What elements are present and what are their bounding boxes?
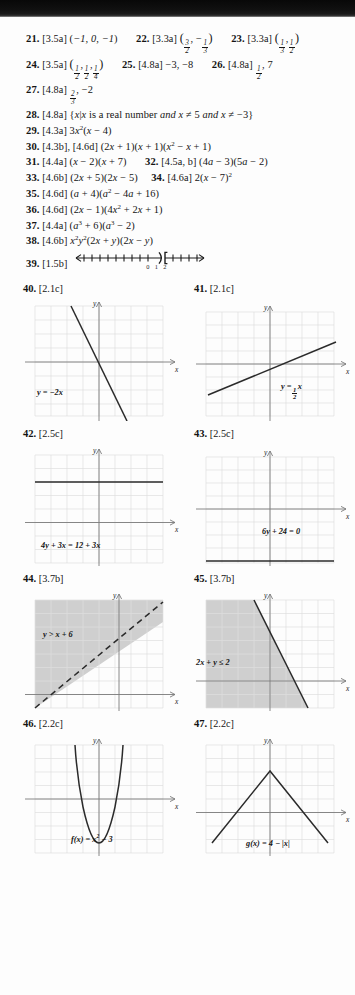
answer-value: (12,12,14) <box>70 59 104 70</box>
graph-number: 45. <box>194 573 207 584</box>
graph-header: 46. [2.2c] <box>23 718 177 729</box>
answer-section: [4.3b], [4.6d] <box>42 141 98 152</box>
answer-number: 32. <box>145 156 159 167</box>
y-axis-label: y <box>92 446 97 455</box>
graph-cell-41: 41. [2.1c] <box>178 276 348 421</box>
x-axis-label: x <box>345 367 350 376</box>
answer-row: 30. [4.3b], [4.6d] (2x + 1)(x + 1)(x2 − … <box>26 140 345 155</box>
answer-value: x2y2(2x + y)(2x − y) <box>70 235 153 246</box>
answer-section: [3.3a] <box>152 33 177 44</box>
answer-section: [4.5a, b] <box>161 156 196 167</box>
line-plot <box>208 342 336 395</box>
answer-row: 21. [3.5a] (−1, 0, −1) 22. [3.3a] (32, −… <box>26 31 345 56</box>
graph-row: 40. [2.1c] <box>7 276 348 421</box>
answer-row: 24. [3.5a] (12,12,14) 25. [4.8a] −3, −8 … <box>26 57 345 82</box>
graph-section: [2.1c] <box>39 283 63 294</box>
graph-section: [2.1c] <box>210 283 234 294</box>
answer-section: [4.8a] <box>42 84 67 95</box>
answer-row: 28. [4.8a] {x|x is a real number and x ≠… <box>26 108 345 123</box>
answer-section: [4.4a] <box>42 156 67 167</box>
answer-number: 33. <box>26 172 40 183</box>
answer-row: 35. [4.6d] (a + 4)(a2 − 4a + 16) <box>26 187 345 202</box>
graph-header: 47. [2.2c] <box>194 718 348 729</box>
answer-value: (a + 4)(a2 − 4a + 16) <box>70 188 159 199</box>
answer-value: 12, 7 <box>255 59 272 70</box>
answer-value: (−1, 0, −1) <box>70 33 118 44</box>
x-axis-label: x <box>174 365 179 374</box>
graph-number: 44. <box>23 573 36 584</box>
answer-value: −3, −8 <box>165 59 193 70</box>
graph-header: 42. [2.5c] <box>23 428 177 439</box>
graph-section: [3.7b] <box>210 573 235 584</box>
answer-number: 25. <box>122 59 136 70</box>
graph-number: 43. <box>194 428 207 439</box>
answer-value: (2x + 5)(2x − 5) <box>70 172 138 183</box>
answer-row: 36. [4.6d] (2x − 1)(4x2 + 2x + 1) <box>26 203 345 218</box>
answer-section: [4.8a] <box>138 59 163 70</box>
answer-value: (a3 + 6)(a3 − 2) <box>70 220 135 231</box>
x-axis-label: x <box>174 697 179 706</box>
graph-46: y x f(x) = x2 − 3 <box>15 731 183 856</box>
graph-cell-47: 47. [2.2c] <box>178 711 348 856</box>
answer-key-page: 21. [3.5a] (−1, 0, −1) 22. [3.3a] (32, −… <box>0 17 355 995</box>
answer-section: [4.6d] <box>42 204 67 215</box>
graph-equation-label: 6y + 24 = 0 <box>262 527 300 536</box>
graph-section: [2.2c] <box>210 718 234 729</box>
x-axis-label: x <box>174 525 179 534</box>
answer-number: 22. <box>136 33 150 44</box>
graph-grid: 40. [2.1c] <box>0 276 355 856</box>
answer-section: [1.5b] <box>42 258 67 269</box>
graph-equation-label: y = −2x <box>37 388 63 397</box>
answer-section: [4.6a] <box>167 172 192 183</box>
graph-40: y x y = −2x <box>15 296 183 421</box>
graph-equation-label: 4y + 3x = 12 + 3x <box>41 541 100 550</box>
graph-cell-43: 43. [2.5c] <box>178 421 348 566</box>
answer-value: (4a − 3)(5a − 2) <box>199 156 268 167</box>
graph-number: 47. <box>194 718 207 729</box>
graph-section: [3.7b] <box>39 573 64 584</box>
answer-section: [3.3a] <box>247 33 272 44</box>
graph-row: 46. [2.2c] <box>7 711 348 856</box>
graph-header: 40. [2.1c] <box>23 283 177 294</box>
graph-function-label: g(x) = 4 − |x| <box>246 839 290 848</box>
answer-section: [4.6b] <box>42 235 67 246</box>
x-axis-label: x <box>345 815 350 824</box>
graph-number: 41. <box>194 283 207 294</box>
x-axis-label: x <box>345 684 350 693</box>
answer-number: 36. <box>26 204 40 215</box>
answer-row: 29. [4.3a] 3x2(x − 4) <box>26 124 345 139</box>
answer-number: 31. <box>26 156 40 167</box>
graph-inequality-label: 2x + y ≤ 2 <box>196 658 230 667</box>
graph-number: 40. <box>23 283 36 294</box>
answer-value: 2(x − 7)2 <box>195 172 232 183</box>
graph-equation-label: y =12x <box>281 382 302 401</box>
graph-cell-40: 40. [2.1c] <box>7 276 177 421</box>
answer-value: (32, −13) <box>180 33 213 44</box>
answer-number: 35. <box>26 188 40 199</box>
graph-41: y x y =12x <box>186 296 354 421</box>
graph-section: [2.5c] <box>210 428 234 439</box>
number-line-graph: 0 1 2 <box>70 250 210 275</box>
graph-cell-42: 42. [2.5c] <box>7 421 177 566</box>
tick-label-0: 0 <box>147 263 150 270</box>
answer-section: [4.3a] <box>42 125 67 136</box>
graph-row: 42. [2.5c] <box>7 421 348 566</box>
y-axis-label: y <box>112 591 117 600</box>
label-text: f(x) = x2 − 3 <box>71 835 113 844</box>
y-axis-label: y <box>92 736 97 745</box>
answer-value: 3x2(x − 4) <box>70 125 112 136</box>
graph-header: 44. [3.7b] <box>23 573 177 584</box>
answer-value: (2x + 1)(x + 1)(x2 − x + 1) <box>101 141 211 152</box>
answer-section: [3.5a] <box>42 59 67 70</box>
answer-number: 24. <box>26 59 40 70</box>
answer-section: [4.8a] <box>228 59 253 70</box>
answer-number: 23. <box>231 33 245 44</box>
graph-number: 42. <box>23 428 36 439</box>
graph-cell-46: 46. [2.2c] <box>7 711 177 856</box>
graph-function-label: f(x) = x2 − 3 <box>71 835 113 844</box>
answer-number: 26. <box>212 59 226 70</box>
answer-value: (13,12) <box>275 33 299 44</box>
x-axis-label: x <box>345 512 350 521</box>
answer-section: [4.4a] <box>42 220 67 231</box>
y-axis-label: y <box>263 448 268 457</box>
